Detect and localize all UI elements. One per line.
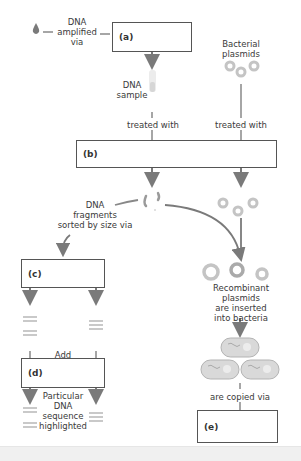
bacteria-icon xyxy=(201,338,279,379)
box-label-e: (e) xyxy=(204,422,218,432)
box-label-b: (b) xyxy=(83,149,98,159)
answer-box-a[interactable]: (a) xyxy=(112,22,192,52)
answer-box-d[interactable]: (d) xyxy=(21,358,105,388)
label-dna-sample: DNA sample xyxy=(116,80,148,100)
label-dna-fragments: DNA fragments sorted by size via xyxy=(56,200,134,230)
plasmid-icon xyxy=(226,62,258,76)
box-label-a: (a) xyxy=(119,32,133,42)
dna-fragment-icon xyxy=(145,193,160,211)
label-bacterial-plasmids: Bacterial plasmids xyxy=(215,39,267,59)
box-label-c: (c) xyxy=(28,269,42,279)
gel-band-icon xyxy=(23,317,103,335)
label-recombinant-plasmids: Recombinant plasmids are inserted into b… xyxy=(195,283,287,323)
bottom-strip xyxy=(0,446,301,461)
box-label-d: (d) xyxy=(28,368,43,378)
label-are-copied-via: are copied via xyxy=(210,392,270,402)
plasmid-icon xyxy=(204,264,267,279)
drop-icon xyxy=(33,23,39,34)
test-tube-icon xyxy=(149,70,156,92)
answer-box-e[interactable]: (e) xyxy=(197,410,278,443)
answer-box-c[interactable]: (c) xyxy=(21,259,105,288)
label-treated-with-right: treated with xyxy=(215,120,267,130)
answer-box-b[interactable]: (b) xyxy=(76,140,277,168)
label-dna-amplified-via: DNA amplified via xyxy=(54,17,100,47)
plasmid-icon xyxy=(219,199,257,215)
label-particular-dna-sequence: Particular DNA sequence highlighted xyxy=(38,391,88,431)
label-treated-with-left: treated with xyxy=(127,120,179,130)
